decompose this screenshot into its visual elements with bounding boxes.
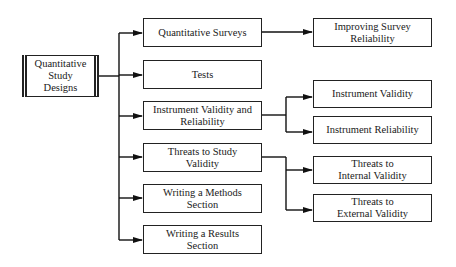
node-instrument-validity: Instrument Validity: [313, 80, 432, 108]
node-label: Writing a Methods Section: [163, 187, 242, 211]
node-label: Threats to Study Validity: [168, 146, 237, 170]
node-label: Instrument Reliability: [326, 124, 418, 136]
root-node-label: Quantitative Study Designs: [35, 58, 87, 94]
node-tests: Tests: [143, 60, 262, 89]
node-threats-external-validity: Threats to External Validity: [313, 194, 432, 222]
node-writing-results-section: Writing a Results Section: [143, 225, 262, 254]
node-label: Instrument Validity and Reliability: [153, 104, 252, 128]
node-label: Tests: [192, 69, 213, 81]
node-label: Threats to Internal Validity: [338, 158, 406, 182]
node-writing-methods-section: Writing a Methods Section: [143, 184, 262, 213]
node-improving-survey-reliability: Improving Survey Reliability: [313, 18, 432, 47]
node-label: Writing a Results Section: [166, 228, 239, 252]
node-instrument-validity-and-reliability: Instrument Validity and Reliability: [143, 101, 262, 130]
node-label: Improving Survey Reliability: [334, 21, 411, 45]
root-node-quantitative-study-designs: Quantitative Study Designs: [22, 55, 99, 97]
node-label: Quantitative Surveys: [158, 27, 246, 39]
node-threats-internal-validity: Threats to Internal Validity: [313, 156, 432, 184]
node-label: Threats to External Validity: [337, 196, 408, 220]
node-label: Instrument Validity: [332, 88, 413, 100]
node-threats-to-study-validity: Threats to Study Validity: [143, 143, 262, 172]
node-quantitative-surveys: Quantitative Surveys: [143, 18, 262, 47]
node-instrument-reliability: Instrument Reliability: [313, 116, 432, 144]
